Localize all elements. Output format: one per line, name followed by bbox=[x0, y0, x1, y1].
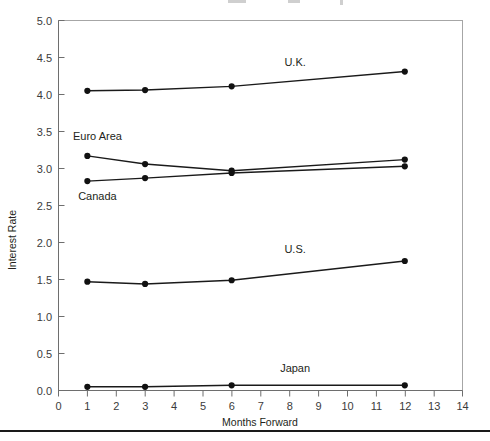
data-point bbox=[402, 258, 408, 264]
x-tick-11: 11 bbox=[371, 391, 382, 413]
series-euro-area: Euro Area bbox=[73, 130, 408, 173]
series-line bbox=[87, 166, 404, 181]
y-tick-label: 4.0 bbox=[37, 89, 52, 101]
y-tick-1: 0.5 bbox=[37, 348, 65, 360]
interest-rate-line-chart: 0.0 0.5 1.0 1.5 2.0 2.5 bbox=[0, 0, 490, 441]
x-axis-ticks: 0 1 2 3 4 5 6 bbox=[55, 391, 468, 413]
x-tick-label: 3 bbox=[142, 400, 148, 412]
y-tick-7: 3.5 bbox=[37, 126, 65, 138]
x-tick-label: 6 bbox=[229, 400, 235, 412]
series-line bbox=[87, 261, 404, 284]
series-line bbox=[87, 72, 404, 91]
x-tick-5: 5 bbox=[200, 391, 206, 413]
y-tick-8: 4.0 bbox=[37, 89, 65, 101]
y-tick-6: 3.0 bbox=[37, 163, 65, 175]
series-u-k: U.K. bbox=[84, 56, 408, 94]
x-tick-label: 14 bbox=[456, 400, 468, 412]
y-tick-10: 5.0 bbox=[37, 15, 65, 27]
series-label: Japan bbox=[280, 362, 310, 374]
x-tick-7: 7 bbox=[258, 391, 264, 413]
y-tick-5: 2.5 bbox=[37, 200, 65, 212]
data-point bbox=[84, 384, 90, 390]
y-tick-0: 0.0 bbox=[37, 385, 65, 397]
data-point bbox=[402, 68, 408, 74]
x-tick-label: 0 bbox=[55, 400, 61, 412]
x-tick-9: 9 bbox=[316, 391, 322, 413]
data-point bbox=[142, 281, 148, 287]
x-tick-2: 2 bbox=[113, 391, 119, 413]
x-axis-title: Months Forward bbox=[222, 416, 298, 428]
data-point bbox=[142, 384, 148, 390]
x-tick-3: 3 bbox=[142, 391, 148, 413]
x-tick-0: 0 bbox=[55, 391, 61, 413]
data-point bbox=[402, 382, 408, 388]
y-axis-title: Interest Rate bbox=[6, 210, 18, 270]
data-point bbox=[402, 163, 408, 169]
series-u-s: U.S. bbox=[84, 243, 408, 287]
y-tick-4: 2.0 bbox=[37, 237, 65, 249]
series-layer: U.K.Euro AreaCanadaU.S.Japan bbox=[73, 56, 408, 390]
y-tick-label: 3.0 bbox=[37, 163, 52, 175]
x-tick-12: 12 bbox=[399, 391, 411, 413]
y-tick-3: 1.5 bbox=[37, 274, 65, 286]
data-point bbox=[229, 83, 235, 89]
x-tick-label: 10 bbox=[341, 400, 353, 412]
plot-frame bbox=[59, 21, 463, 391]
series-canada: Canada bbox=[78, 163, 408, 201]
data-point bbox=[229, 277, 235, 283]
x-tick-label: 5 bbox=[200, 400, 206, 412]
x-tick-10: 10 bbox=[341, 391, 353, 413]
series-label: Euro Area bbox=[73, 130, 123, 142]
y-axis-ticks: 0.0 0.5 1.0 1.5 2.0 2.5 bbox=[37, 15, 65, 397]
y-tick-label: 2.5 bbox=[37, 200, 52, 212]
x-tick-label: 8 bbox=[287, 400, 293, 412]
y-tick-label: 2.0 bbox=[37, 237, 52, 249]
y-tick-9: 4.5 bbox=[37, 52, 65, 64]
x-tick-label: 9 bbox=[316, 400, 322, 412]
y-tick-label: 5.0 bbox=[37, 15, 52, 27]
data-point bbox=[142, 87, 148, 93]
series-label: U.S. bbox=[284, 243, 305, 255]
x-tick-13: 13 bbox=[428, 391, 440, 413]
data-point bbox=[84, 153, 90, 159]
series-label: Canada bbox=[78, 190, 117, 202]
x-tick-14: 14 bbox=[456, 391, 468, 413]
x-tick-label: 2 bbox=[113, 400, 119, 412]
x-tick-1: 1 bbox=[84, 391, 90, 413]
data-point bbox=[229, 382, 235, 388]
x-tick-8: 8 bbox=[287, 391, 293, 413]
x-tick-label: 12 bbox=[399, 400, 411, 412]
series-line bbox=[87, 385, 404, 386]
y-tick-label: 0.0 bbox=[37, 385, 52, 397]
series-japan: Japan bbox=[84, 362, 408, 390]
data-point bbox=[142, 175, 148, 181]
x-tick-label: 11 bbox=[371, 400, 382, 412]
data-point bbox=[229, 170, 235, 176]
x-tick-label: 4 bbox=[171, 400, 177, 412]
series-label: U.K. bbox=[284, 56, 305, 68]
x-tick-label: 1 bbox=[84, 400, 90, 412]
x-tick-4: 4 bbox=[171, 391, 177, 413]
y-tick-label: 1.5 bbox=[37, 274, 52, 286]
data-point bbox=[84, 88, 90, 94]
data-point bbox=[84, 178, 90, 184]
x-tick-label: 13 bbox=[428, 400, 440, 412]
y-tick-2: 1.0 bbox=[37, 311, 65, 323]
data-point bbox=[402, 157, 408, 163]
figure-container: 0.0 0.5 1.0 1.5 2.0 2.5 bbox=[0, 0, 490, 441]
x-tick-label: 7 bbox=[258, 400, 264, 412]
y-tick-label: 1.0 bbox=[37, 311, 52, 323]
data-point bbox=[142, 161, 148, 167]
x-tick-6: 6 bbox=[229, 391, 235, 413]
y-tick-label: 4.5 bbox=[37, 52, 52, 64]
data-point bbox=[84, 279, 90, 285]
y-tick-label: 3.5 bbox=[37, 126, 52, 138]
top-edge-artifacts bbox=[228, 0, 343, 5]
y-tick-label: 0.5 bbox=[37, 348, 52, 360]
